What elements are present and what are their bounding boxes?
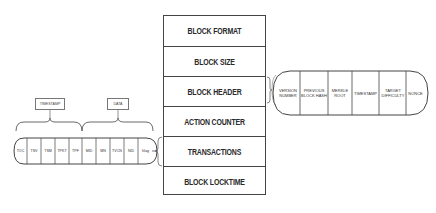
data-group-label: DATA: [107, 98, 129, 110]
tx-field-tpkt: TPKT: [55, 138, 69, 164]
tx-field-nid: NID: [124, 138, 138, 164]
tx-field-toc: TOC: [14, 138, 27, 164]
tx-field-tvcn: TVCN: [110, 138, 124, 164]
block-locktime-label: BLOCK LOCKTIME: [172, 167, 258, 197]
tx-field-hlag: hlag: [138, 138, 153, 164]
header-bracket: [267, 77, 272, 103]
action-counter-row: ACTION COUNTER: [164, 106, 265, 136]
block-header-label: BLOCK HEADER: [172, 77, 258, 107]
header-field-previous-block-hash: PREVIOUS BLOCK HASH: [301, 71, 327, 115]
action-counter-label: ACTION COUNTER: [172, 107, 258, 137]
block-format-label: BLOCK FORMAT: [172, 16, 258, 46]
block-format-row: BLOCK FORMAT: [164, 16, 265, 46]
tx-field-tpf: TPF: [69, 138, 82, 164]
transactions-label: TRANSACTIONS: [172, 137, 258, 167]
block-size-row: BLOCK SIZE: [164, 46, 265, 76]
header-field-version-number: VERSION NUMBER: [276, 71, 300, 115]
header-field-timestamp: TIMESTAMP: [352, 71, 379, 115]
tx-field-mid: MID: [82, 138, 96, 164]
transactions-row: TRANSACTIONS: [164, 136, 265, 166]
block-header-fields: VERSION NUMBER PREVIOUS BLOCK HASH MERKL…: [273, 71, 428, 115]
block-locktime-row: BLOCK LOCKTIME: [164, 166, 265, 196]
transaction-fields: TOC TSV TSM TPKT TPF MID MN TVCN NID hla…: [14, 138, 157, 164]
tx-field-tsm: TSM: [41, 138, 55, 164]
header-field-target-difficulty: TARGET DIFFICULTY: [380, 71, 406, 115]
data-brace: [82, 118, 153, 131]
tx-field-mn: MN: [96, 138, 110, 164]
block-header-row: BLOCK HEADER: [164, 76, 265, 106]
timestamp-brace: [16, 118, 82, 131]
timestamp-group-label: TIMESTAMP: [35, 98, 65, 110]
tx-field-tsv: TSV: [27, 138, 41, 164]
header-field-merkle-root: MERKLE ROOT: [329, 71, 351, 115]
block-structure-stack: BLOCK FORMAT BLOCK SIZE BLOCK HEADER ACT…: [163, 15, 266, 195]
header-field-nonce: NONCE: [406, 71, 425, 115]
block-size-label: BLOCK SIZE: [172, 47, 258, 77]
